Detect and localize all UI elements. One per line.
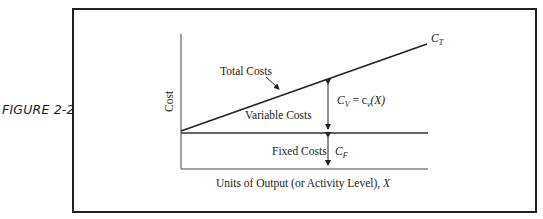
- variable-costs-label: Variable Costs: [245, 109, 312, 121]
- x-axis-label: Units of Output (or Activity Level), X: [216, 177, 391, 190]
- cv-label: CV = cv(X): [337, 94, 385, 109]
- ct-label: CT: [431, 32, 444, 47]
- fixed-costs-label: Fixed Costs: [272, 145, 327, 157]
- total-costs-pointer: [266, 77, 279, 89]
- cf-label: CF: [335, 145, 348, 160]
- cost-diagram: Cost Total Costs CT Variable Costs CV = …: [0, 0, 543, 219]
- total-costs-label: Total Costs: [220, 65, 272, 77]
- y-axis-label: Cost: [163, 90, 175, 112]
